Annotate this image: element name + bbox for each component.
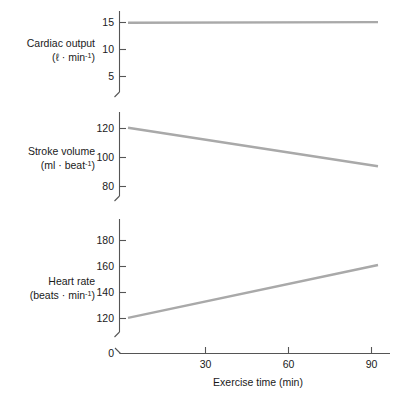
stroke-volume-tick-label-120: 120 — [96, 122, 114, 134]
heart-rate-tick-label-0: 0 — [108, 347, 114, 359]
cardiac-output-axis-label-line2: (ℓ · min-1) — [52, 51, 95, 64]
x-axis-tick-label-30: 30 — [200, 358, 212, 370]
heart-rate-unit-suffix: ) — [92, 289, 96, 301]
stroke-volume-tick-label-100: 100 — [96, 151, 114, 163]
panel-heart-rate: 180 160 140 120 0 Heart rate (beats · mi… — [30, 219, 378, 359]
x-axis-tick-label-90: 90 — [366, 358, 378, 370]
heart-rate-tick-label-180: 180 — [96, 234, 114, 246]
panel-cardiac-output: 15 10 5 Cardiac output (ℓ · min-1) — [27, 11, 378, 97]
stroke-volume-axis-label-line2: (ml · beat-1) — [41, 159, 95, 172]
cardiac-output-tick-label-5: 5 — [108, 70, 114, 82]
heart-rate-axis-break-icon — [115, 332, 120, 337]
stroke-volume-axis-break-icon — [115, 196, 120, 201]
stroke-volume-axis-label-line1: Stroke volume — [28, 145, 95, 157]
x-axis-title: Exercise time (min) — [213, 376, 303, 388]
stroke-volume-unit-suffix: ) — [92, 159, 96, 171]
heart-rate-unit-prefix: (beats · min — [30, 289, 86, 301]
panel-stroke-volume: 120 100 80 Stroke volume (ml · beat-1) — [28, 112, 378, 201]
x-axis-tick-label-60: 60 — [283, 358, 295, 370]
cardiac-output-data-line — [128, 22, 378, 23]
heart-rate-axis-label-line2: (beats · min-1) — [30, 289, 95, 302]
x-axis-origin-break-icon — [115, 348, 121, 354]
stroke-volume-tick-label-80: 80 — [102, 180, 114, 192]
heart-rate-tick-label-140: 140 — [96, 286, 114, 298]
x-axis-group: 30 60 90 Exercise time (min) — [115, 347, 390, 388]
cardiac-output-unit-suffix: ) — [92, 51, 96, 63]
multi-panel-line-chart: 15 10 5 Cardiac output (ℓ · min-1) 120 1… — [0, 0, 412, 399]
heart-rate-tick-label-160: 160 — [96, 260, 114, 272]
cardiac-output-tick-label-15: 15 — [102, 16, 114, 28]
cardiac-output-axis-label-line1: Cardiac output — [27, 37, 95, 49]
stroke-volume-data-line — [128, 128, 378, 166]
heart-rate-tick-label-120: 120 — [96, 312, 114, 324]
cardiac-output-tick-label-10: 10 — [102, 43, 114, 55]
figure-container: 15 10 5 Cardiac output (ℓ · min-1) 120 1… — [0, 0, 412, 399]
heart-rate-data-line — [128, 265, 378, 318]
cardiac-output-axis-break-icon — [115, 92, 120, 97]
cardiac-output-unit-prefix: (ℓ · min — [52, 51, 85, 63]
stroke-volume-unit-prefix: (ml · beat — [41, 159, 85, 171]
heart-rate-axis-label-line1: Heart rate — [48, 275, 95, 287]
